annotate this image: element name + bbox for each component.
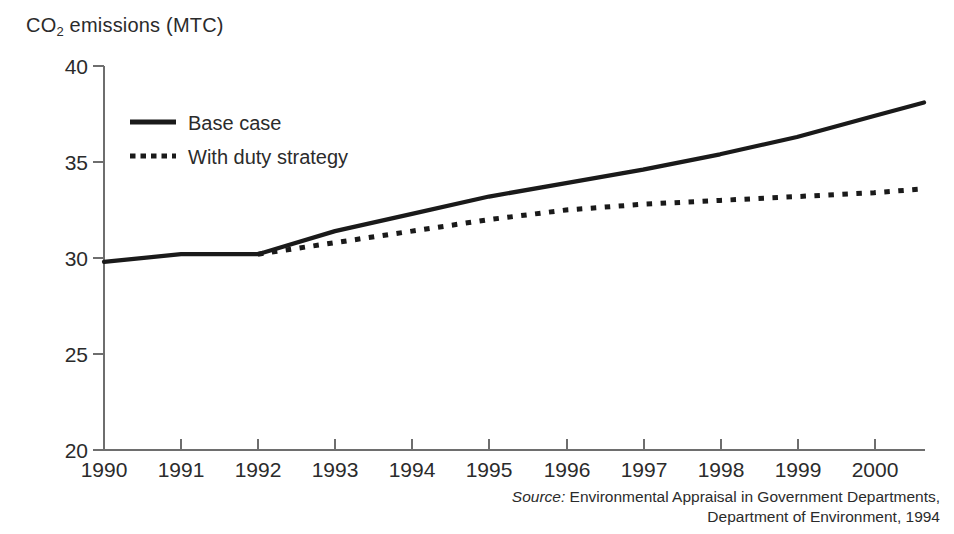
source-note: Source: Environmental Appraisal in Gover… (240, 487, 940, 527)
legend-label-with-duty-strategy: With duty strategy (188, 146, 348, 168)
x-tick-label-1999: 1999 (775, 458, 822, 481)
x-tick-label-1998: 1998 (698, 458, 745, 481)
x-tick-label-1995: 1995 (466, 458, 513, 481)
x-tick-label-1994: 1994 (389, 458, 436, 481)
source-line-2: Department of Environment, 1994 (707, 508, 940, 525)
y-axis-ticks (93, 66, 104, 450)
x-tick-label-1993: 1993 (312, 458, 359, 481)
chart-container: CO2 emissions (MTC) 40 35 30 25 20 (0, 0, 954, 534)
x-axis-ticks (104, 439, 875, 450)
legend-label-base-case: Base case (188, 112, 281, 134)
y-tick-label-25: 25 (65, 343, 88, 366)
x-tick-label-1996: 1996 (544, 458, 591, 481)
x-tick-label-1991: 1991 (158, 458, 205, 481)
source-label: Source: (512, 488, 565, 505)
series-line-with-duty-strategy (258, 189, 924, 254)
x-tick-label-1992: 1992 (235, 458, 282, 481)
x-tick-label-1997: 1997 (621, 458, 668, 481)
y-tick-label-30: 30 (65, 247, 88, 270)
y-tick-label-35: 35 (65, 151, 88, 174)
x-tick-label-1990: 1990 (81, 458, 128, 481)
chart-legend: Base case With duty strategy (130, 112, 348, 168)
y-tick-label-40: 40 (65, 55, 88, 78)
x-tick-label-2000: 2000 (852, 458, 899, 481)
line-chart-plot: 40 35 30 25 20 1990 1991 1992 1993 1994 … (0, 0, 954, 534)
source-line-1: Environmental Appraisal in Government De… (565, 488, 940, 505)
